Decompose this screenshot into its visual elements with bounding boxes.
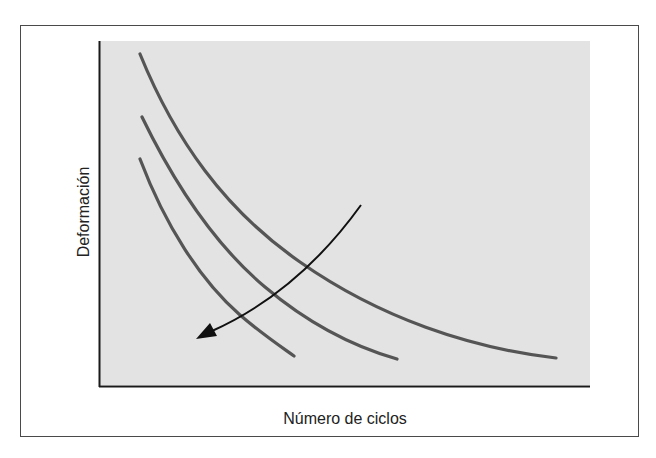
- arrowhead-icon: [196, 323, 217, 339]
- shift-arrow: [212, 205, 361, 331]
- y-axis-label: Deformación: [75, 167, 93, 258]
- fatigue-curve-3: [140, 159, 294, 356]
- x-axis-label: Número de ciclos: [283, 410, 407, 428]
- chart-svg: [0, 0, 656, 458]
- fatigue-curve-1: [140, 54, 556, 358]
